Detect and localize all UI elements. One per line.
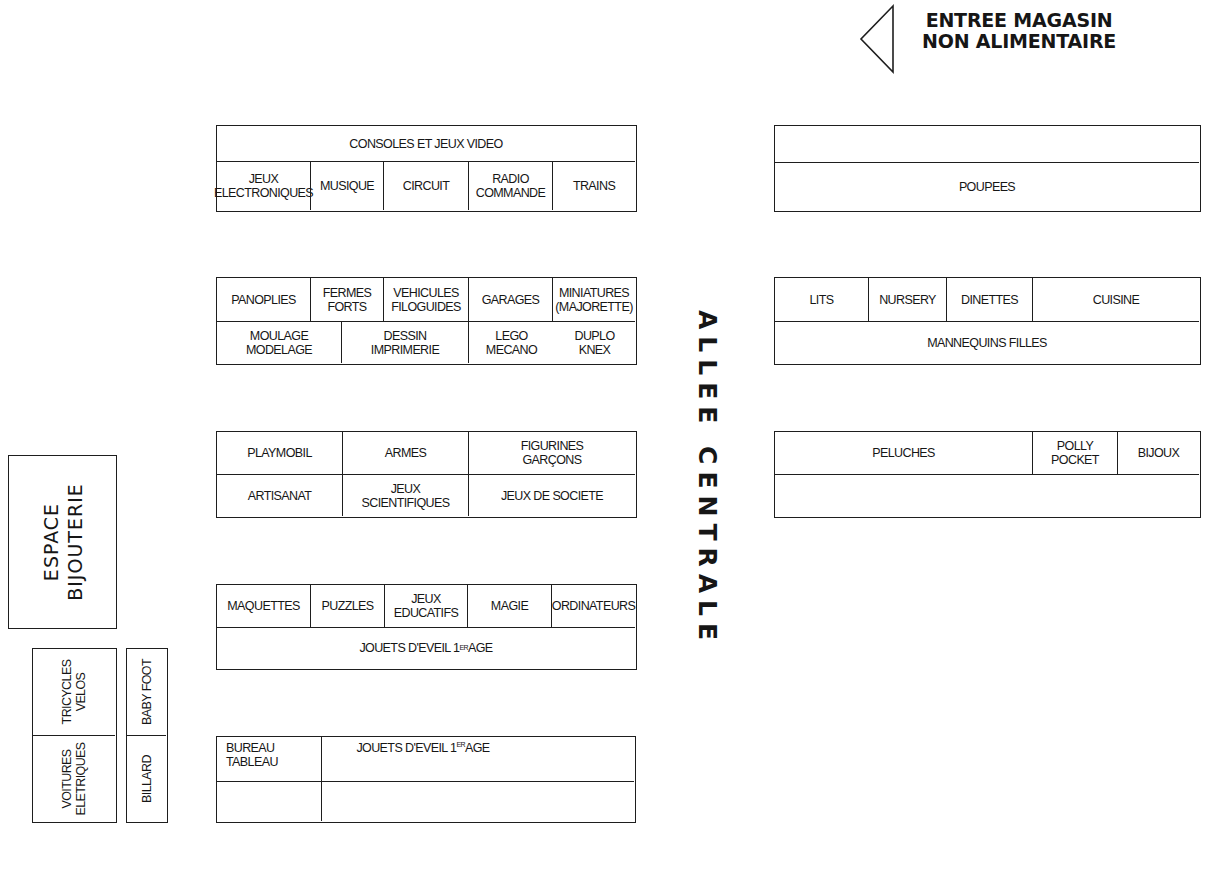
section-voitures-electriques[interactable]: VOITURES ELETRIQUES [33,735,115,821]
section-empty-right[interactable] [321,781,634,821]
section-billard[interactable]: BILLARD [127,735,166,821]
section-vehicules-filoguides[interactable]: VEHICULES FILOGUIDES [383,278,468,321]
section-magie[interactable]: MAGIE [467,585,551,627]
section-bijoux[interactable]: BIJOUX [1117,432,1199,474]
section-radio-commande[interactable]: RADIO COMMANDE [468,161,552,210]
section-jeux-educatifs[interactable]: JEUX EDUCATIFS [384,585,467,627]
section-poupees[interactable]: POUPEES [775,162,1199,210]
shelf-maquettes-eveil: MAQUETTES PUZZLES JEUX EDUCATIFS MAGIE O… [216,584,637,670]
shelf-consoles-video-games: CONSOLES ET JEUX VIDEO JEUX ELECTRONIQUE… [216,125,637,212]
voitures-label: VOITURES ELETRIQUES [60,742,88,815]
shelf-bureau-eveil: BUREAU TABLEAU JOUETS D'EVEIL 1ER AGE [216,736,636,823]
section-peluches[interactable]: PELUCHES [775,432,1032,474]
shelf-nursery-mannequins: LITS NURSERY DINETTES CUISINE MANNEQUINS… [774,277,1201,365]
section-jouets-eveil-1er-age-2[interactable]: JOUETS D'EVEIL 1ER AGE [321,737,634,781]
section-empty-left[interactable] [217,781,321,821]
section-consoles-jeux-video[interactable]: CONSOLES ET JEUX VIDEO [217,126,635,161]
section-maquettes[interactable]: MAQUETTES [217,585,310,627]
central-aisle-text: ALLEE CENTRALE [694,309,723,646]
section-lits[interactable]: LITS [775,278,868,321]
section-bureau-tableau[interactable]: BUREAU TABLEAU [217,737,321,781]
section-panoplies[interactable]: PANOPLIES [217,278,310,321]
section-puzzles[interactable]: PUZZLES [310,585,384,627]
section-polly-pocket[interactable]: POLLY POCKET [1032,432,1117,474]
area-tricycles-voitures: TRICYCLES VELOS VOITURES ELETRIQUES [32,648,117,823]
label-tail: AGE [465,741,490,755]
section-lego-mecano[interactable]: LEGO MECANO [468,321,554,363]
section-circuit[interactable]: CIRCUIT [383,161,468,210]
label-sup: ER [456,741,465,749]
section-jouets-eveil-1er-age[interactable]: JOUETS D'EVEIL 1ER AGE [217,627,635,668]
shelf-playmobil-games: PLAYMOBIL ARMES FIGURINES GARÇONS ARTISA… [216,431,637,518]
section-dinettes[interactable]: DINETTES [946,278,1032,321]
espace-bijouterie-label: ESPACE BIJOUTERIE [39,483,87,601]
section-duplo-knex[interactable]: DUPLO KNEX [554,321,635,363]
section-empty-bottom[interactable] [775,474,1199,516]
billard-label: BILLARD [140,755,154,803]
baby-foot-label: BABY FOOT [140,659,154,725]
section-playmobil[interactable]: PLAYMOBIL [217,432,342,474]
section-garages[interactable]: GARAGES [468,278,552,321]
section-armes[interactable]: ARMES [342,432,468,474]
shelf-panoplies-vehicles: PANOPLIES FERMES FORTS VEHICULES FILOGUI… [216,277,637,365]
section-cuisine[interactable]: CUISINE [1032,278,1199,321]
section-empty-top[interactable] [775,126,1199,162]
area-espace-bijouterie[interactable]: ESPACE BIJOUTERIE [8,455,117,629]
section-jeux-de-societe[interactable]: JEUX DE SOCIETE [468,474,635,516]
section-tricycles-velos[interactable]: TRICYCLES VELOS [33,649,115,735]
section-mannequins-filles[interactable]: MANNEQUINS FILLES [775,321,1199,363]
label-main: JOUETS D'EVEIL 1 [359,641,459,655]
central-aisle-label: ALLEE CENTRALE [692,236,724,720]
section-moulage-modelage[interactable]: MOULAGE MODELAGE [217,321,341,363]
section-figurines-garcons[interactable]: FIGURINES GARÇONS [468,432,635,474]
tricycles-label: TRICYCLES VELOS [60,660,88,725]
section-trains[interactable]: TRAINS [552,161,635,210]
shelf-peluches-bijoux: PELUCHES POLLY POCKET BIJOUX [774,431,1201,518]
section-fermes-forts[interactable]: FERMES FORTS [310,278,383,321]
section-dessin-imprimerie[interactable]: DESSIN IMPRIMERIE [341,321,468,363]
entrance-label: ENTREE MAGASIN NON ALIMENTAIRE [922,10,1116,52]
section-jeux-scientifiques[interactable]: JEUX SCIENTIFIQUES [342,474,468,516]
label-main: JOUETS D'EVEIL 1 [356,741,456,755]
section-artisanat[interactable]: ARTISANAT [217,474,342,516]
section-miniatures-majorette[interactable]: MINIATURES (MAJORETTE) [552,278,635,321]
label-tail: AGE [468,641,493,655]
entrance-arrow-icon [858,4,896,74]
section-musique[interactable]: MUSIQUE [310,161,383,210]
section-nursery[interactable]: NURSERY [868,278,946,321]
shelf-poupees: POUPEES [774,125,1201,212]
section-ordinateurs[interactable]: ORDINATEURS [551,585,635,627]
section-jeux-electroniques[interactable]: JEUX ELECTRONIQUES [217,161,310,210]
section-baby-foot[interactable]: BABY FOOT [127,649,166,735]
label-sup: ER [459,644,468,652]
area-baby-foot-billard: BABY FOOT BILLARD [126,648,168,823]
